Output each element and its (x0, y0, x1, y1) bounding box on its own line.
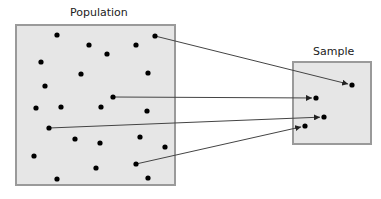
dot (145, 70, 150, 75)
dot (145, 175, 150, 180)
dot (72, 136, 77, 141)
dot (86, 42, 91, 47)
dot (302, 123, 307, 128)
dot (313, 95, 318, 100)
dot (31, 153, 36, 158)
dot (54, 176, 59, 181)
dot (144, 108, 149, 113)
dot (152, 33, 157, 38)
dot (162, 144, 167, 149)
dot (321, 114, 326, 119)
dot (137, 134, 142, 139)
dot (78, 71, 83, 76)
dot (133, 42, 138, 47)
sampling-diagram (0, 0, 381, 199)
dot (93, 165, 98, 170)
dot (98, 104, 103, 109)
dot (349, 82, 354, 87)
dot (110, 94, 115, 99)
dot (42, 83, 47, 88)
dot (133, 161, 138, 166)
sample-box (293, 62, 371, 144)
dot (104, 51, 109, 56)
arrow (155, 36, 348, 84)
dot (38, 59, 43, 64)
dot (46, 125, 51, 130)
dot (97, 140, 102, 145)
dot (54, 32, 59, 37)
dot (58, 104, 63, 109)
dot (33, 105, 38, 110)
